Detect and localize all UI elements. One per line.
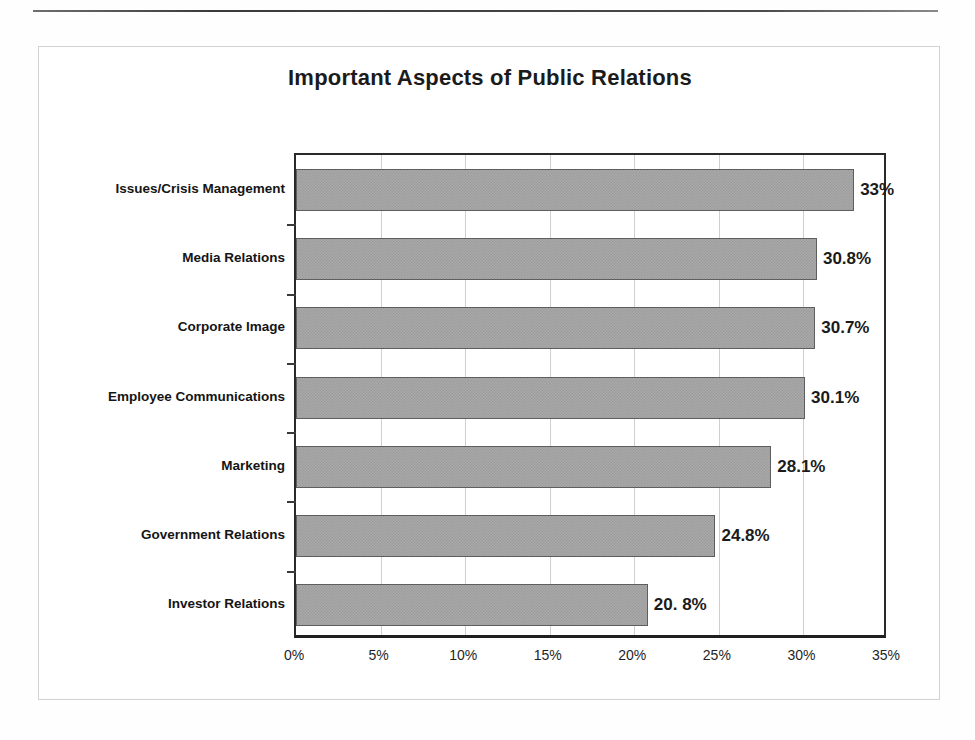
bar-value-label: 30.1%	[811, 388, 859, 408]
bar-row: 20. 8%	[296, 584, 884, 626]
bar-row: 33%	[296, 169, 884, 211]
category-tick	[287, 224, 296, 226]
chart-title: Important Aspects of Public Relations	[39, 65, 941, 91]
category-tick	[287, 432, 296, 434]
category-label-4: Employee Communications	[39, 388, 285, 403]
xtick-label-0pct: 0%	[284, 647, 304, 663]
category-label-2: Media Relations	[39, 249, 285, 264]
bar-value-label: 24.8%	[721, 526, 769, 546]
bar-value-label: 30.7%	[821, 318, 869, 338]
category-label-7: Investor Relations	[39, 596, 285, 611]
bar-4[interactable]	[296, 377, 805, 419]
bar-6[interactable]	[296, 515, 715, 557]
bar-2[interactable]	[296, 238, 817, 280]
category-tick	[287, 571, 296, 573]
bar-value-label: 30.8%	[823, 249, 871, 269]
bar-row: 30.8%	[296, 238, 884, 280]
xtick-label-20pct: 20%	[618, 647, 646, 663]
xtick-label-25pct: 25%	[703, 647, 731, 663]
bar-3[interactable]	[296, 307, 815, 349]
xtick-label-5pct: 5%	[368, 647, 388, 663]
category-label-3: Corporate Image	[39, 319, 285, 334]
category-label-1: Issues/Crisis Management	[39, 180, 285, 195]
bar-7[interactable]	[296, 584, 648, 626]
bar-1[interactable]	[296, 169, 854, 211]
category-tick	[287, 294, 296, 296]
bar-row: 24.8%	[296, 515, 884, 557]
page-canvas: Important Aspects of Public Relations Is…	[0, 0, 975, 740]
bar-5[interactable]	[296, 446, 771, 488]
bar-series: 33%30.8%30.7%30.1%28.1%24.8%20. 8%	[296, 155, 884, 635]
category-tick	[287, 501, 296, 503]
xtick-label-30pct: 30%	[787, 647, 815, 663]
bar-value-label: 33%	[860, 180, 894, 200]
bar-value-label: 28.1%	[777, 457, 825, 477]
category-label-6: Government Relations	[39, 527, 285, 542]
figure-container: Important Aspects of Public Relations Is…	[38, 46, 940, 700]
plot-area: 33%30.8%30.7%30.1%28.1%24.8%20. 8%	[294, 153, 886, 638]
category-axis-labels: Issues/Crisis ManagementMedia RelationsC…	[39, 153, 285, 638]
category-label-5: Marketing	[39, 457, 285, 472]
bar-row: 30.1%	[296, 377, 884, 419]
xtick-label-15pct: 15%	[534, 647, 562, 663]
category-tick	[287, 363, 296, 365]
bar-row: 28.1%	[296, 446, 884, 488]
xtick-label-35pct: 35%	[872, 647, 900, 663]
xtick-label-10pct: 10%	[449, 647, 477, 663]
page-top-rule	[33, 10, 938, 12]
bar-value-label: 20. 8%	[654, 595, 707, 615]
value-axis-tick-labels: 0%5%10%15%20%25%30%35%	[294, 647, 886, 677]
bar-row: 30.7%	[296, 307, 884, 349]
